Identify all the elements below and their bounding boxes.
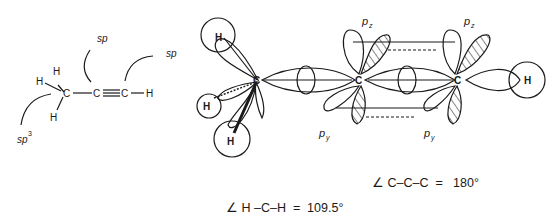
atom-c3: C [121,88,128,99]
orbital-atom-c2: C [355,75,362,86]
atom-h-bottom: H [50,112,57,123]
orbital-atom-h-right: H [524,75,531,86]
c3-pz-upper-hatched [457,35,490,74]
structural-formula [21,50,153,125]
c2-py-lower-hatched [352,86,365,124]
c2-pz-upper [343,30,363,74]
sigma-c3-h [466,69,520,90]
angle-h-c-h: ∠ H –C–H = 109.5° [226,201,343,213]
label-pz-right: p [463,15,470,27]
label-sp3: sp [17,134,28,145]
label-sp-terminal: sp [166,48,177,59]
c3-pz-upper [443,30,461,74]
label-pz-right-sub: z [470,22,475,29]
bond-c-h-bottom-wedge [234,83,256,133]
orbital-atom-h-left: H [203,101,210,112]
angle-c-c-c: ∠ C–C–C = 180° [372,176,479,191]
atom-c2: C [93,88,100,99]
label-py-right-sub: y [430,134,435,142]
label-py-left-sub: y [325,134,330,142]
bond-c1-h-left [45,83,61,91]
arc-sp3 [21,94,51,125]
sp3-lobe-back [255,82,263,118]
arc-sp-middle [84,50,91,82]
bond-c-h-top-orbital [224,38,257,80]
atom-h-right: H [146,88,153,99]
label-py-right: p [423,127,430,139]
label-pz-left: p [361,15,368,27]
orbital-atom-h-bottom: H [227,136,234,147]
atom-c1: C [63,88,70,99]
c2-pz-upper-hatched [361,35,390,74]
orbital-diagram [197,18,545,157]
c3-py-lower-hatched [448,86,461,124]
bond-angles-sp3: ∠ H –C–H = 109.5° ∠ C–C–H = 109.5° [226,171,343,213]
atom-h-top: H [53,66,60,77]
label-pz-left-sub: z [368,22,373,29]
arc-sp-terminal [125,56,153,81]
structural-formula-labels: H H H C C C H sp 3 sp sp [17,33,177,145]
orbital-atom-h-top: H [215,32,222,43]
label-sp3-superscript: 3 [28,130,32,137]
label-sp-middle: sp [97,33,108,44]
atom-h-left: H [36,76,43,87]
bond-angles-sp: ∠ C–C–C = 180° ∠ C–C–H = 180° [372,146,479,213]
orbital-atom-c3: C [454,75,461,86]
label-py-left: p [318,127,325,139]
orbital-atom-c1: C [253,75,260,86]
